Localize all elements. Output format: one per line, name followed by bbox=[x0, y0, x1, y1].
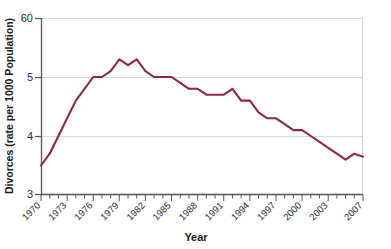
x-tick-label-1988: 1988 bbox=[176, 200, 199, 223]
x-tick-label-1994: 1994 bbox=[229, 200, 252, 223]
x-tick-label-1991: 1991 bbox=[202, 200, 225, 223]
y-axis-title: Divorces (rate per 1000 Population) bbox=[3, 18, 15, 194]
x-tick-label-2007: 2007 bbox=[342, 200, 365, 223]
x-tick-label-1979: 1979 bbox=[98, 200, 121, 223]
x-tick-label-1985: 1985 bbox=[150, 200, 173, 223]
y-tick-label-3: 3 bbox=[27, 188, 33, 200]
x-axis-tick-labels: 1970197319761979198219851988199119941997… bbox=[20, 200, 365, 223]
x-axis-ticks bbox=[41, 195, 363, 201]
x-tick-label-2000: 2000 bbox=[281, 200, 304, 223]
x-tick-label-1997: 1997 bbox=[255, 200, 278, 223]
y-axis-ticks bbox=[35, 19, 41, 195]
x-tick-label-2003: 2003 bbox=[307, 200, 330, 223]
y-tick-label-6: 60 bbox=[21, 12, 33, 24]
x-axis-title: Year bbox=[184, 231, 208, 243]
y-tick-label-4: 4 bbox=[27, 130, 33, 142]
divorce-rate-line-chart: 60 5 4 3 1970197319761979198219851988199… bbox=[0, 0, 391, 249]
x-tick-label-1970: 1970 bbox=[20, 200, 43, 223]
y-tick-label-5: 5 bbox=[27, 71, 33, 83]
x-tick-label-1976: 1976 bbox=[72, 200, 95, 223]
x-tick-label-1982: 1982 bbox=[124, 200, 147, 223]
x-tick-label-1973: 1973 bbox=[46, 200, 69, 223]
chart-canvas: 60 5 4 3 1970197319761979198219851988199… bbox=[0, 0, 391, 249]
plot-background bbox=[41, 18, 363, 195]
